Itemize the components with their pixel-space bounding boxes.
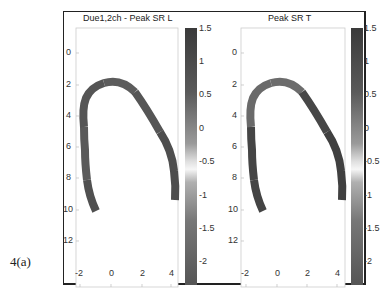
plots-svg — [0, 0, 387, 290]
right-cbar-tick: 1 — [364, 56, 369, 66]
left-xtick: 0 — [109, 268, 114, 278]
left-axes — [76, 28, 178, 287]
right-cbar-tick: 0 — [364, 123, 369, 133]
left-colorbar — [185, 28, 197, 285]
left-ytick: 0 — [66, 47, 71, 57]
left-cbar-tick: 0 — [199, 123, 204, 133]
left-xtick: -2 — [75, 268, 83, 278]
right-xtick: 4 — [335, 268, 340, 278]
left-cbar-tick: -0.5 — [199, 156, 215, 166]
right-xtick: -2 — [241, 268, 249, 278]
right-ytick: 0 — [232, 47, 237, 57]
right-colorbar — [351, 28, 363, 285]
right-xtick: 2 — [305, 268, 310, 278]
left-xtick: 4 — [169, 268, 174, 278]
right-ytick: 10 — [228, 204, 238, 214]
right-ytick: 8 — [232, 172, 237, 182]
right-cbar-tick: -1 — [364, 190, 372, 200]
left-cbar-tick: 1.5 — [199, 23, 212, 33]
left-ytick: 6 — [66, 141, 71, 151]
right-ytick: 6 — [232, 141, 237, 151]
left-cbar-tick: -2 — [199, 256, 207, 266]
left-cbar-tick: 1 — [199, 56, 204, 66]
left-cbar-tick: -1 — [199, 190, 207, 200]
right-xtick: 0 — [275, 268, 280, 278]
right-cbar-tick: -1.5 — [364, 223, 380, 233]
left-ytick: 2 — [66, 79, 71, 89]
right-cbar-tick: -0.5 — [364, 156, 380, 166]
left-cbar-tick: -1.5 — [199, 223, 215, 233]
right-ytick: 4 — [232, 110, 237, 120]
right-cbar-tick: 1.5 — [364, 23, 377, 33]
right-ytick: 2 — [232, 79, 237, 89]
left-ytick: 10 — [63, 204, 73, 214]
left-xtick: 2 — [140, 268, 145, 278]
left-ytick: 12 — [63, 235, 73, 245]
right-ytick: 12 — [228, 235, 238, 245]
right-cbar-tick: -2 — [364, 256, 372, 266]
right-axes — [241, 28, 345, 287]
right-cbar-tick: 0.5 — [364, 89, 377, 99]
left-ytick: 8 — [66, 172, 71, 182]
left-cbar-tick: 0.5 — [199, 89, 212, 99]
left-ytick: 4 — [66, 110, 71, 120]
